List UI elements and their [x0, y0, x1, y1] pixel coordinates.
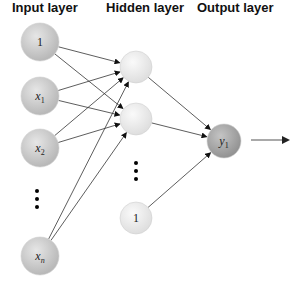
- input-node-1: x1: [21, 77, 59, 115]
- ellipsis-group: [35, 161, 138, 209]
- hidden-node-1: [120, 103, 152, 135]
- output-node: y1: [207, 124, 241, 158]
- input-ellipsis-dot: [35, 189, 39, 193]
- connection-edge: [58, 124, 120, 143]
- input-ellipsis-dot: [35, 205, 39, 209]
- hidden-ellipsis-dot: [134, 161, 138, 165]
- svg-text:1: 1: [133, 211, 139, 225]
- nodes-group: 1x1x2xn1y1: [21, 23, 241, 275]
- input-node-0: 1: [21, 23, 59, 61]
- hidden-node-0: [120, 51, 152, 83]
- connection-edge: [58, 47, 119, 63]
- connection-edge: [49, 82, 129, 239]
- connection-edge: [51, 133, 126, 241]
- connection-edge: [58, 72, 120, 91]
- svg-text:1: 1: [37, 35, 43, 49]
- hidden-ellipsis-dot: [134, 169, 138, 173]
- connection-edge: [152, 123, 207, 137]
- connection-edge: [148, 77, 210, 129]
- input-ellipsis-dot: [35, 197, 39, 201]
- connection-edge: [148, 153, 210, 208]
- hidden-ellipsis-dot: [134, 177, 138, 181]
- neural-network-diagram: 1x1x2xn1y1: [0, 0, 302, 286]
- input-node-2: x2: [21, 129, 59, 167]
- input-node-3: xn: [21, 237, 59, 275]
- connection-edge: [58, 100, 119, 115]
- hidden-node-2: 1: [120, 202, 152, 234]
- connection-edge: [55, 78, 123, 136]
